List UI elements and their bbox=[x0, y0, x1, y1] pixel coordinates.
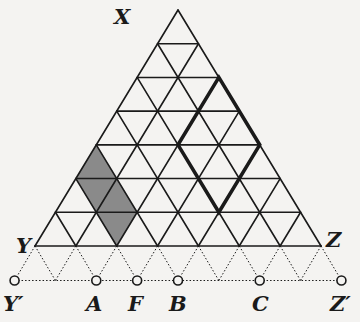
label-f: F bbox=[127, 291, 145, 316]
label-x: X bbox=[112, 4, 131, 29]
label-z: Z bbox=[325, 227, 342, 252]
label-a: A bbox=[84, 291, 102, 316]
label-z-prime: Z′ bbox=[329, 291, 351, 316]
label-y-prime: Y′ bbox=[3, 291, 24, 316]
label-b: B bbox=[168, 291, 187, 316]
label-c: C bbox=[252, 291, 269, 316]
label-y: Y bbox=[16, 233, 33, 258]
diagram-labels: X Y Z Y′ A F B C Z′ bbox=[0, 0, 360, 322]
